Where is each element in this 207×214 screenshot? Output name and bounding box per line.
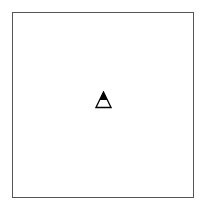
triangle-icon — [95, 91, 112, 109]
